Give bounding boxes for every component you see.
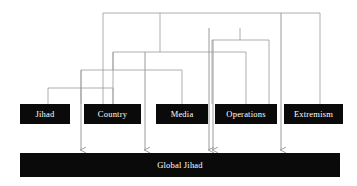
node-label: Jihad [36,109,55,119]
node-label: Extremism [294,109,333,119]
bracket-group-operations [113,13,246,104]
node-extremism[interactable]: Extremism [284,104,343,124]
node-media[interactable]: Media [156,104,208,124]
target-node-label: Global Jihad [157,160,203,170]
node-label: Media [171,109,194,119]
arrow-group [81,13,281,150]
bracket-group [48,13,320,104]
node-jihad[interactable]: Jihad [20,104,70,124]
target-node-global-jihad[interactable]: Global Jihad [20,153,340,177]
bracket-top-extremism [103,13,320,104]
node-country[interactable]: Country [84,104,141,124]
diagram-canvas: JihadCountryMediaOperationsExtremism Glo… [0,0,357,186]
node-label: Country [98,109,127,119]
bracket-inner-operations [212,28,269,104]
node-label: Operations [226,109,265,119]
bracket-pair-media [81,52,182,104]
node-operations[interactable]: Operations [215,104,277,124]
